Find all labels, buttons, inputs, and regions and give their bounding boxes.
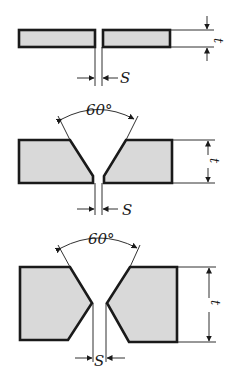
plate-right (104, 140, 172, 183)
plate-right (107, 267, 177, 342)
gap-label: S (94, 352, 104, 370)
thickness-label: t (211, 38, 225, 44)
joint-double-v: 60° S t (20, 230, 223, 370)
plate-left (19, 140, 93, 183)
joint-square-butt: S t (19, 16, 225, 87)
plate-right (103, 30, 170, 47)
plate-left (20, 267, 92, 340)
weld-joints-diagram: S t 60° S t 60° S (0, 0, 225, 381)
gap-label: S (120, 69, 130, 87)
angle-label: 60° (88, 230, 115, 248)
joint-single-v: 60° S t (19, 101, 222, 219)
angle-label: 60° (86, 101, 113, 119)
gap-label: S (122, 201, 132, 219)
thickness-label: t (207, 158, 222, 164)
thickness-label: t (208, 300, 223, 306)
plate-left (19, 30, 95, 47)
